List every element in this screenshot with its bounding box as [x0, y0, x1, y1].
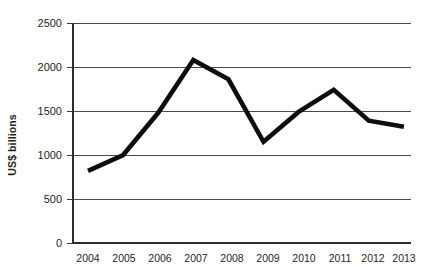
chart-figure: 2500 2000 1500 1000 500 0 US$ billions 2…	[0, 0, 426, 277]
plot-area-background	[73, 23, 411, 243]
x-tick-label-2012: 2012	[361, 252, 385, 264]
x-tick-label-2007: 2007	[184, 252, 208, 264]
y-axis-title: US$ billions	[6, 114, 18, 175]
x-tick-label-2010: 2010	[292, 252, 316, 264]
y-tick-label-1000: 1000	[38, 149, 62, 161]
y-tick-label-2500: 2500	[38, 17, 62, 29]
x-tick-label-2009: 2009	[256, 252, 280, 264]
x-tick-label-2011: 2011	[329, 252, 352, 264]
x-axis-tick-labels: 2004 2005 2006 2007 2008 2009 2010 2011 …	[76, 252, 416, 264]
y-tick-label-0: 0	[56, 237, 62, 249]
y-axis-tick-labels: 2500 2000 1500 1000 500 0	[38, 17, 62, 249]
x-tick-label-2013: 2013	[392, 252, 416, 264]
x-tick-label-2008: 2008	[220, 252, 244, 264]
line-chart: 2500 2000 1500 1000 500 0 US$ billions 2…	[0, 0, 426, 277]
y-axis-tick-marks	[67, 23, 73, 243]
x-tick-label-2006: 2006	[148, 252, 172, 264]
x-tick-label-2004: 2004	[76, 252, 100, 264]
y-tick-label-2000: 2000	[38, 61, 62, 73]
y-tick-label-1500: 1500	[38, 105, 62, 117]
x-tick-label-2005: 2005	[112, 252, 136, 264]
y-tick-label-500: 500	[44, 193, 62, 205]
